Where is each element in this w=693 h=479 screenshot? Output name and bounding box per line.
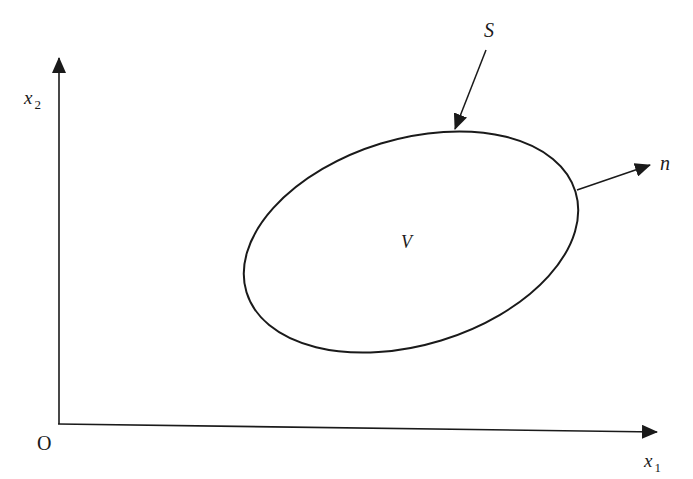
surface-pointer-arrow — [455, 50, 486, 129]
x1-label-main: x — [644, 450, 652, 471]
x2-label-main: x — [24, 87, 32, 108]
x1-axis-label: x1 — [644, 451, 661, 474]
x1-label-sub: 1 — [654, 460, 661, 475]
normal-vector-arrow — [577, 165, 650, 190]
diagram-canvas — [0, 0, 693, 479]
surface-label: S — [484, 20, 494, 40]
normal-label: n — [660, 153, 670, 173]
x1-axis-line — [58, 424, 657, 432]
volume-label: V — [401, 233, 412, 251]
origin-label: O — [37, 433, 51, 453]
x2-label-sub: 2 — [34, 97, 41, 112]
x2-axis-label: x2 — [24, 88, 41, 111]
